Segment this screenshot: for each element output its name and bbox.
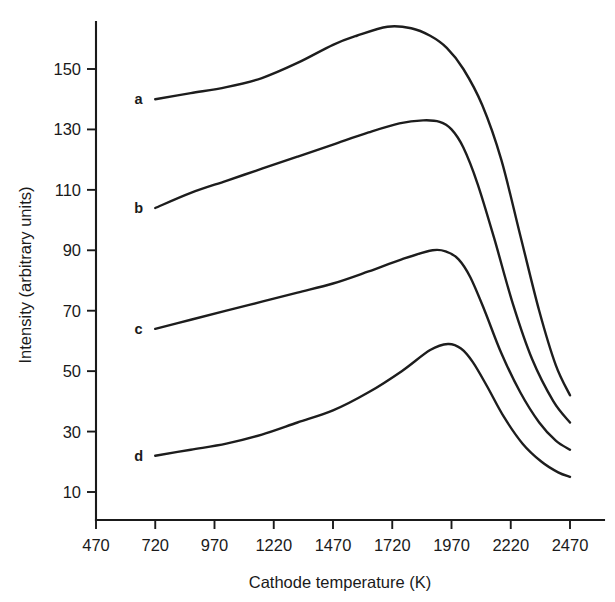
y-axis-title: Intensity (arbitrary units) — [16, 187, 34, 364]
y-axis-tick-group: 1030507090110130150 — [53, 60, 96, 501]
curve-label-a: a — [135, 91, 144, 107]
x-axis-tick-label: 1720 — [374, 536, 411, 554]
y-axis-tick-label: 30 — [63, 423, 81, 441]
y-axis-tick-label: 130 — [53, 120, 81, 138]
x-axis-tick-label: 2470 — [552, 536, 589, 554]
x-axis-tick-label: 720 — [141, 536, 169, 554]
x-axis-tick-label: 1470 — [315, 536, 352, 554]
data-curve-a — [155, 26, 570, 395]
data-curve-c — [155, 250, 570, 450]
curve-label-d: d — [134, 448, 143, 464]
y-axis-tick-label: 110 — [55, 181, 81, 199]
x-axis-title: Cathode temperature (K) — [249, 573, 432, 591]
data-curve-b — [155, 120, 570, 422]
x-axis-tick-label: 970 — [201, 536, 229, 554]
data-curves-group — [155, 26, 570, 477]
y-axis-tick-label: 50 — [63, 362, 81, 380]
y-axis-tick-label: 90 — [63, 241, 81, 259]
curve-labels-group: abcd — [134, 91, 143, 464]
y-axis-tick-label: 150 — [53, 60, 81, 78]
x-axis-tick-label: 1970 — [433, 536, 470, 554]
curve-label-b: b — [134, 200, 143, 216]
curve-label-c: c — [135, 321, 143, 337]
x-axis-tick-label: 470 — [82, 536, 110, 554]
intensity-vs-cathode-temperature-chart: 1030507090110130150 47072097012201470172… — [0, 0, 615, 602]
y-axis-tick-label: 70 — [63, 302, 81, 320]
chart-plot-area: 1030507090110130150 47072097012201470172… — [0, 0, 615, 602]
data-curve-d — [155, 344, 570, 477]
x-axis-tick-label: 1220 — [255, 536, 292, 554]
y-axis-tick-label: 10 — [63, 483, 81, 501]
x-axis-tick-label: 2220 — [492, 536, 529, 554]
x-axis-tick-group: 470720970122014701720197022202470 — [82, 520, 588, 554]
